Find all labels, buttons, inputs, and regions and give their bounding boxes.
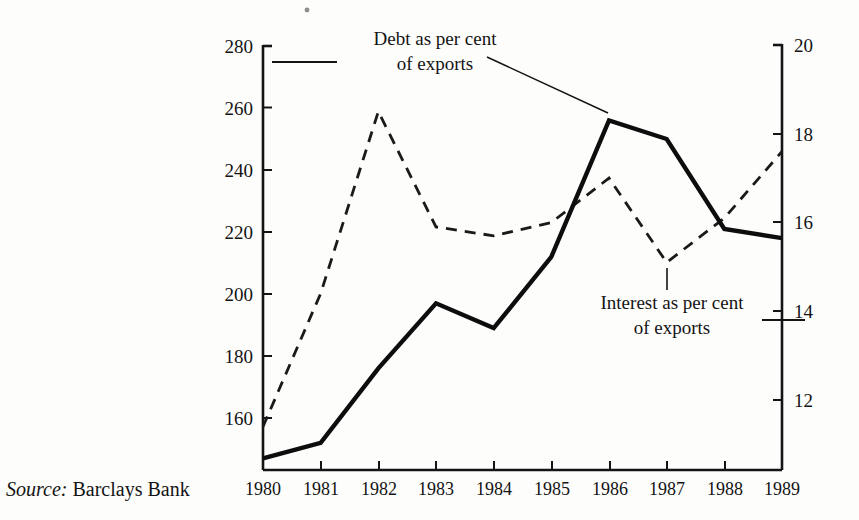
- source-note: Source: Barclays Bank: [6, 478, 190, 501]
- right-tick-18: 18: [794, 124, 813, 145]
- x-tick-1988: 1988: [707, 479, 743, 499]
- right-tick-12: 12: [794, 390, 813, 411]
- x-tick-1982: 1982: [361, 479, 397, 499]
- source-value: Barclays Bank: [72, 478, 189, 500]
- left-tick-180: 180: [225, 346, 254, 367]
- right-axis: [773, 44, 782, 470]
- left-tick-220: 220: [225, 222, 254, 243]
- debt-series-line: [263, 120, 782, 458]
- left-tick-200: 200: [225, 284, 254, 305]
- x-tick-1985: 1985: [534, 479, 570, 499]
- debt-annotation-leader: [487, 57, 608, 113]
- x-tick-1981: 1981: [303, 479, 339, 499]
- x-tick-1980: 1980: [245, 479, 281, 499]
- interest-annotation-line1: Interest as per cent: [601, 292, 745, 313]
- chart-page: 280 260 240 220 200 180 160 20 18 16 14 …: [0, 0, 859, 520]
- interest-series-line: [263, 112, 782, 427]
- left-tick-160: 160: [225, 408, 254, 429]
- right-tick-14: 14: [794, 301, 814, 322]
- left-tick-240: 240: [225, 160, 254, 181]
- x-tick-1987: 1987: [649, 479, 685, 499]
- scan-speck: [305, 8, 310, 13]
- x-tick-1983: 1983: [418, 479, 454, 499]
- x-axis-tick-labels: 1980 1981 1982 1983 1984 1985 1986 1987 …: [245, 479, 800, 499]
- interest-annotation: Interest as per cent of exports: [601, 268, 805, 338]
- x-tick-1989: 1989: [764, 479, 800, 499]
- right-tick-16: 16: [794, 212, 813, 233]
- source-label: Source:: [6, 478, 67, 500]
- x-axis: [263, 461, 782, 470]
- debt-annotation-line2: of exports: [397, 53, 474, 74]
- left-tick-260: 260: [225, 98, 254, 119]
- left-axis-tick-labels: 280 260 240 220 200 180 160: [225, 36, 254, 429]
- debt-annotation: Debt as per cent of exports: [272, 28, 608, 113]
- debt-annotation-line1: Debt as per cent: [374, 28, 498, 49]
- interest-annotation-line2: of exports: [634, 317, 711, 338]
- right-axis-tick-labels: 20 18 16 14 12: [794, 35, 814, 411]
- x-tick-1986: 1986: [592, 479, 628, 499]
- x-tick-1984: 1984: [476, 479, 512, 499]
- dual-axis-line-chart: 280 260 240 220 200 180 160 20 18 16 14 …: [0, 0, 859, 520]
- left-tick-280: 280: [225, 36, 254, 57]
- right-tick-20: 20: [794, 35, 813, 56]
